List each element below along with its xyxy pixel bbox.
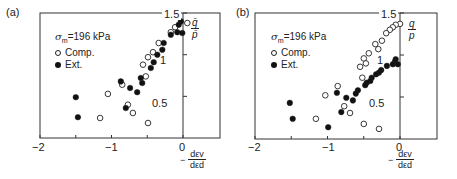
comp-data-point xyxy=(376,126,382,132)
comp-data-point xyxy=(379,38,385,44)
comp-data-point xyxy=(366,51,372,57)
comp-data-point xyxy=(323,93,329,99)
comp-data-point xyxy=(347,110,353,116)
y-tick-label: 0.5 xyxy=(369,97,384,109)
legend-item-comp: Comp. xyxy=(271,47,326,59)
panel-a: (a) σm=196 kPa Comp. Ext. −2 −1 0 0.5 1 … xyxy=(0,0,228,179)
comp-data-point xyxy=(376,46,382,52)
ext-data-point xyxy=(175,29,181,35)
ext-data-point xyxy=(127,85,133,91)
ext-data-point xyxy=(287,100,293,106)
comp-data-point xyxy=(361,121,367,127)
ext-data-point xyxy=(134,89,140,95)
comp-data-point xyxy=(145,54,151,60)
comp-data-point xyxy=(363,61,369,67)
comp-data-point xyxy=(97,115,103,121)
x-tick-label: −2 xyxy=(248,141,261,153)
legend: σm=196 kPa Comp. Ext. xyxy=(55,31,110,71)
ext-data-point xyxy=(362,82,368,88)
y-axis-label: q̄ p̄ xyxy=(191,17,199,40)
comp-data-point xyxy=(130,110,136,116)
y-tick-label: 1.5 xyxy=(379,8,398,20)
comp-data-point xyxy=(140,62,146,68)
ext-data-point xyxy=(384,63,390,69)
comp-data-point xyxy=(360,75,366,81)
ext-data-point xyxy=(180,30,186,36)
ext-data-point xyxy=(168,32,174,38)
ext-data-point xyxy=(161,40,167,46)
comp-data-point xyxy=(313,116,319,122)
ext-data-point xyxy=(390,61,396,67)
ext-data-point xyxy=(123,105,129,111)
ext-data-point xyxy=(73,94,79,100)
ext-data-point xyxy=(148,65,154,71)
filled-circle-icon xyxy=(271,62,277,68)
legend-title: σm=196 kPa xyxy=(271,31,326,47)
x-tick-label: −2 xyxy=(32,141,45,153)
comp-data-point xyxy=(357,64,363,70)
ext-data-point xyxy=(325,124,331,130)
open-circle-icon xyxy=(271,50,277,56)
plot-area xyxy=(228,0,457,179)
ext-data-point xyxy=(176,22,182,28)
x-tick-label: −1 xyxy=(322,141,335,153)
ext-data-point xyxy=(353,91,359,97)
ext-data-point xyxy=(339,109,345,115)
y-tick-label: 1.5 xyxy=(162,8,181,20)
legend-item-ext: Ext. xyxy=(55,59,110,71)
x-axis-label: − dεv dεd xyxy=(180,149,206,170)
open-circle-icon xyxy=(55,50,61,56)
y-axis-label: q p xyxy=(408,18,416,41)
panel-b: (b) σm=196 kPa Comp. Ext. −2 −1 0 0.5 1 … xyxy=(228,0,456,179)
comp-data-point xyxy=(143,74,149,80)
legend-title: σm=196 kPa xyxy=(55,31,110,47)
ext-data-point xyxy=(151,59,157,65)
comp-data-point xyxy=(341,103,347,109)
comp-data-point xyxy=(335,83,341,89)
ext-data-point xyxy=(160,47,166,53)
ext-data-point xyxy=(75,114,81,120)
ext-data-point xyxy=(118,79,124,85)
legend-item-ext: Ext. xyxy=(271,59,326,71)
comp-data-point xyxy=(105,91,111,97)
ext-data-point xyxy=(344,95,350,101)
comp-data-point xyxy=(383,30,389,36)
comp-data-point xyxy=(145,120,151,126)
ext-data-point xyxy=(138,75,144,81)
x-tick-label: −1 xyxy=(105,141,118,153)
ext-data-point xyxy=(290,116,296,122)
legend-item-comp: Comp. xyxy=(55,47,110,59)
y-tick-label: 1 xyxy=(377,54,383,66)
y-tick-label: 0.5 xyxy=(152,97,167,109)
filled-circle-icon xyxy=(55,62,61,68)
comp-data-point xyxy=(185,20,191,26)
ext-data-point xyxy=(334,90,340,96)
y-tick-label: 1 xyxy=(160,54,166,66)
ext-data-point xyxy=(139,80,145,86)
x-axis-label: − dεv dεd xyxy=(388,149,414,170)
legend: σm=196 kPa Comp. Ext. xyxy=(271,31,326,71)
ext-data-point xyxy=(350,98,356,104)
